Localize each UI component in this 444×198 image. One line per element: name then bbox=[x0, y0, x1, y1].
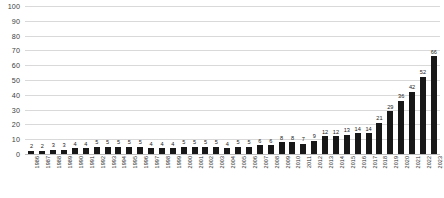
x-axis-tick: 2016 bbox=[352, 156, 363, 196]
bar[interactable] bbox=[170, 148, 176, 154]
x-axis-tick: 2015 bbox=[341, 156, 352, 196]
bar-column[interactable]: 4 bbox=[167, 6, 178, 154]
bar-column[interactable]: 29 bbox=[385, 6, 396, 154]
bar-column[interactable]: 4 bbox=[222, 6, 233, 154]
bar[interactable] bbox=[431, 56, 437, 154]
bar[interactable] bbox=[333, 136, 339, 154]
bar-column[interactable]: 4 bbox=[80, 6, 91, 154]
bar-column[interactable]: 5 bbox=[200, 6, 211, 154]
bar[interactable] bbox=[126, 147, 132, 154]
bar[interactable] bbox=[159, 148, 165, 154]
bar-column[interactable]: 14 bbox=[352, 6, 363, 154]
bar-column[interactable]: 5 bbox=[124, 6, 135, 154]
bar-value-label: 42 bbox=[409, 85, 415, 91]
bar[interactable] bbox=[39, 151, 45, 154]
bar[interactable] bbox=[420, 77, 426, 154]
bar-column[interactable]: 5 bbox=[189, 6, 200, 154]
x-axis-tick: 1989 bbox=[59, 156, 70, 196]
bar-column[interactable]: 9 bbox=[309, 6, 320, 154]
bar-value-label: 5 bbox=[117, 140, 120, 146]
bar[interactable] bbox=[257, 145, 263, 154]
bar[interactable] bbox=[72, 148, 78, 154]
x-axis-tick: 1999 bbox=[167, 156, 178, 196]
bar-value-label: 5 bbox=[106, 140, 109, 146]
bar[interactable] bbox=[289, 142, 295, 154]
bar-column[interactable]: 8 bbox=[276, 6, 287, 154]
bar[interactable] bbox=[94, 147, 100, 154]
bar-column[interactable]: 6 bbox=[265, 6, 276, 154]
bar[interactable] bbox=[213, 147, 219, 154]
bar-series: 2233445555544455554556688791212131414212… bbox=[25, 6, 440, 154]
bar-column[interactable]: 13 bbox=[341, 6, 352, 154]
bar[interactable] bbox=[387, 111, 393, 154]
bar-column[interactable]: 5 bbox=[244, 6, 255, 154]
x-axis-tick: 2000 bbox=[178, 156, 189, 196]
bar[interactable] bbox=[366, 133, 372, 154]
x-axis-tick: 2004 bbox=[222, 156, 233, 196]
bar-column[interactable]: 12 bbox=[331, 6, 342, 154]
bar[interactable] bbox=[300, 144, 306, 154]
x-axis-tick: 2003 bbox=[211, 156, 222, 196]
bar[interactable] bbox=[28, 151, 34, 154]
bar[interactable] bbox=[398, 101, 404, 154]
bar-value-label: 5 bbox=[247, 140, 250, 146]
bar-column[interactable]: 4 bbox=[146, 6, 157, 154]
bar-value-label: 7 bbox=[302, 137, 305, 143]
bar[interactable] bbox=[235, 147, 241, 154]
x-axis-tick: 1996 bbox=[135, 156, 146, 196]
bar[interactable] bbox=[181, 147, 187, 154]
bar-column[interactable]: 5 bbox=[233, 6, 244, 154]
bar-column[interactable]: 2 bbox=[26, 6, 37, 154]
y-axis-tick-label: 60 bbox=[12, 61, 20, 70]
bar-column[interactable]: 42 bbox=[407, 6, 418, 154]
bar[interactable] bbox=[268, 145, 274, 154]
bar[interactable] bbox=[50, 150, 56, 154]
bar-column[interactable]: 5 bbox=[135, 6, 146, 154]
bar-column[interactable]: 2 bbox=[37, 6, 48, 154]
bar[interactable] bbox=[202, 147, 208, 154]
x-axis-tick: 1991 bbox=[80, 156, 91, 196]
x-axis-tick: 2001 bbox=[189, 156, 200, 196]
y-axis-tick-label: 50 bbox=[12, 76, 20, 85]
bar[interactable] bbox=[322, 136, 328, 154]
y-axis-tick-label: 80 bbox=[12, 31, 20, 40]
bar-column[interactable]: 14 bbox=[363, 6, 374, 154]
bar-column[interactable]: 5 bbox=[113, 6, 124, 154]
bar[interactable] bbox=[137, 147, 143, 154]
bar-column[interactable]: 8 bbox=[287, 6, 298, 154]
bar[interactable] bbox=[224, 148, 230, 154]
bar-column[interactable]: 5 bbox=[211, 6, 222, 154]
bar-column[interactable]: 7 bbox=[298, 6, 309, 154]
bar-column[interactable]: 21 bbox=[374, 6, 385, 154]
bar[interactable] bbox=[192, 147, 198, 154]
bar-column[interactable]: 52 bbox=[418, 6, 429, 154]
bar-column[interactable]: 6 bbox=[254, 6, 265, 154]
x-axis-tick: 1994 bbox=[113, 156, 124, 196]
bar-column[interactable]: 5 bbox=[102, 6, 113, 154]
bar[interactable] bbox=[115, 147, 121, 154]
y-axis-tick-label: 10 bbox=[12, 135, 20, 144]
bar-column[interactable]: 3 bbox=[48, 6, 59, 154]
bar-column[interactable]: 36 bbox=[396, 6, 407, 154]
bar[interactable] bbox=[311, 141, 317, 154]
bar[interactable] bbox=[148, 148, 154, 154]
bar[interactable] bbox=[355, 133, 361, 154]
bar-column[interactable]: 5 bbox=[91, 6, 102, 154]
bar-column[interactable]: 5 bbox=[178, 6, 189, 154]
x-axis-tick: 2005 bbox=[233, 156, 244, 196]
bar-column[interactable]: 4 bbox=[157, 6, 168, 154]
bar[interactable] bbox=[83, 148, 89, 154]
bar[interactable] bbox=[61, 150, 67, 154]
bar[interactable] bbox=[409, 92, 415, 154]
bar[interactable] bbox=[105, 147, 111, 154]
bar-column[interactable]: 66 bbox=[428, 6, 439, 154]
x-axis-tick: 2007 bbox=[254, 156, 265, 196]
bar[interactable] bbox=[246, 147, 252, 154]
x-axis-tick: 1992 bbox=[91, 156, 102, 196]
bar[interactable] bbox=[376, 123, 382, 154]
bar[interactable] bbox=[344, 135, 350, 154]
bar-column[interactable]: 4 bbox=[70, 6, 81, 154]
bar[interactable] bbox=[279, 142, 285, 154]
bar-column[interactable]: 3 bbox=[59, 6, 70, 154]
bar-column[interactable]: 12 bbox=[320, 6, 331, 154]
